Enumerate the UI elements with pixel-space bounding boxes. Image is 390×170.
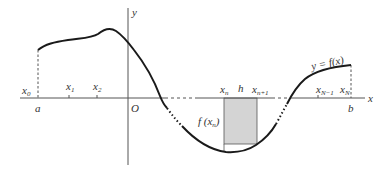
label-x0: x0 <box>21 84 31 98</box>
label-x1: x1 <box>65 80 74 94</box>
label-xN-1: xN−1 <box>315 83 334 97</box>
x-axis-label: x <box>367 92 373 104</box>
label-xn+1: xn+1 <box>251 83 269 97</box>
rectangle-rule-diagram: y x O a b x0 x1 x2 xn h xn+1 xN−1 xN f (… <box>0 0 390 170</box>
label-h: h <box>238 82 244 94</box>
label-x2: x2 <box>92 80 102 94</box>
curve-dotted-right <box>276 104 287 124</box>
shaded-rectangle <box>224 98 257 144</box>
origin-label: O <box>131 102 139 114</box>
label-xn: xn <box>219 83 229 97</box>
label-f-xn: f (xn) <box>198 115 220 129</box>
curve-label: y = f(x) <box>309 53 345 73</box>
label-b: b <box>348 102 354 114</box>
label-xN: xN <box>339 83 350 97</box>
curve-dotted-left <box>167 108 182 126</box>
label-a: a <box>35 102 41 114</box>
curve-left <box>38 29 167 108</box>
y-axis-label: y <box>131 6 137 18</box>
